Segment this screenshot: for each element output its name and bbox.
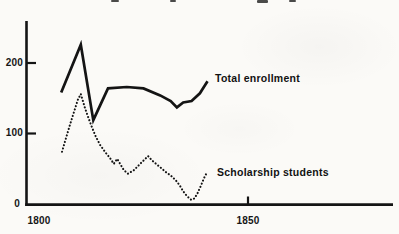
scholarship-students-label: Scholarship students [217, 166, 329, 178]
x-tick-label-1800: 1800 [22, 215, 56, 226]
y-tick-label-200: 200 [0, 57, 23, 68]
scholarship-students-line [62, 94, 207, 200]
chart-container: 200 100 0 1800 1850 Total enrollment Sch… [0, 0, 399, 234]
chart-canvas [0, 0, 399, 234]
x-tick-label-1850: 1850 [231, 215, 265, 226]
total-enrollment-label: Total enrollment [215, 72, 300, 84]
y-tick-label-0: 0 [0, 198, 20, 209]
total-enrollment-line [61, 45, 207, 120]
y-tick-label-100: 100 [0, 127, 23, 138]
